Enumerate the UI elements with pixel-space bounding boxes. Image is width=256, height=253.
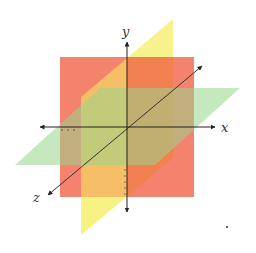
stray-dot bbox=[226, 226, 228, 228]
coordinate-planes-diagram: y x z bbox=[0, 0, 256, 253]
x-axis-label: x bbox=[221, 120, 229, 135]
y-axis-label: y bbox=[121, 24, 130, 39]
z-axis-label: z bbox=[32, 190, 40, 205]
